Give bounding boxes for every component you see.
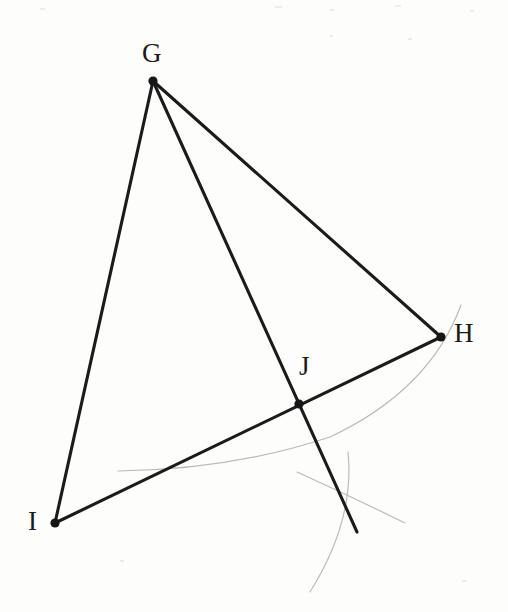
segment-g-extended: [153, 81, 357, 532]
vertex-dot-group: [50, 76, 445, 527]
figure-canvas: [0, 0, 508, 612]
segment-g-h: [153, 81, 441, 337]
segment-i-h: [55, 337, 441, 523]
arc-large-icon: [118, 305, 461, 471]
vertex-dot-h: [436, 332, 445, 341]
geometry-figure: G H I J: [0, 0, 508, 612]
vertex-dot-g: [148, 76, 157, 85]
vertex-dot-i: [50, 518, 59, 527]
segment-g-i: [55, 81, 153, 523]
vertex-label-i: I: [28, 508, 37, 535]
vertex-label-h: H: [454, 320, 474, 347]
vertex-dot-j: [294, 399, 303, 408]
segment-group: [55, 81, 441, 532]
vertex-label-j: J: [299, 353, 310, 380]
construction-arc-group: [118, 305, 461, 592]
vertex-label-g: G: [142, 40, 162, 67]
